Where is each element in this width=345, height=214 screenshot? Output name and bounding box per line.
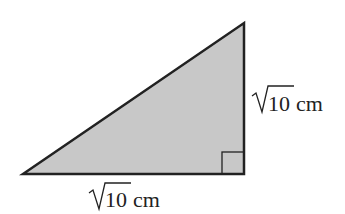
horizontal-unit: cm (133, 187, 160, 212)
triangle-diagram: 10 cm 10 cm (0, 0, 345, 214)
horizontal-radicand: 10 (105, 187, 127, 212)
vertical-radicand: 10 (268, 91, 290, 116)
right-triangle (23, 23, 244, 174)
vertical-unit: cm (296, 91, 323, 116)
horizontal-side-label: 10 cm (89, 183, 160, 212)
vertical-side-label: 10 cm (252, 86, 323, 116)
